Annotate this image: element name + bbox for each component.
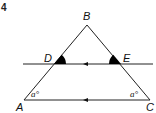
triangle-diagram: B D E A C a° a° [0, 0, 156, 113]
angle-e-marker [109, 55, 121, 64]
label-b: B [83, 10, 90, 22]
label-c: C [146, 101, 154, 113]
label-e: E [123, 52, 131, 64]
angle-label-c: a° [130, 89, 139, 99]
parallel-arrow-ac-icon [83, 98, 88, 102]
label-d: D [44, 52, 52, 64]
parallel-arrow-de-icon [83, 62, 88, 66]
label-a: A [15, 101, 23, 113]
angle-label-a: a° [31, 89, 40, 99]
angle-d-marker [54, 55, 66, 64]
